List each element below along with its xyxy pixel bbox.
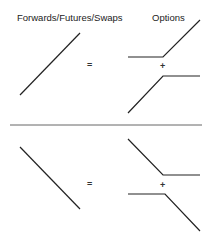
short-put-payoff-line	[128, 76, 200, 113]
plus-sign-top: +	[160, 62, 165, 71]
long-call-payoff-line	[128, 20, 200, 57]
equals-sign-top: =	[87, 61, 92, 70]
long-put-payoff-line	[128, 139, 200, 175]
payoff-diagram	[0, 0, 212, 242]
plus-sign-bottom: +	[160, 181, 165, 190]
short-call-payoff-line	[128, 194, 200, 231]
long-forward-payoff-line	[20, 33, 80, 95]
equals-sign-bottom: =	[87, 180, 92, 189]
short-forward-payoff-line	[20, 147, 80, 209]
